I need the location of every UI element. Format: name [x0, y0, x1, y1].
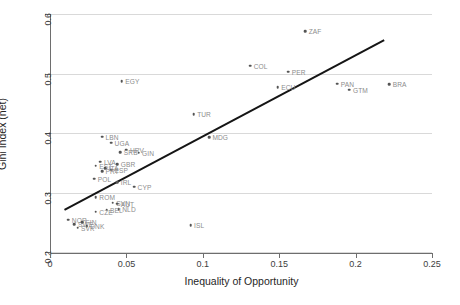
data-point-label: SRB — [124, 149, 138, 156]
y-axis-tick-label: 0.5 — [43, 73, 53, 86]
data-point-label: CYP — [138, 183, 152, 190]
data-point-label: UGA — [115, 139, 130, 146]
data-point — [73, 223, 76, 226]
x-axis-tick-label: 0.1 — [178, 259, 228, 269]
data-point — [119, 151, 122, 154]
data-point-label: CZE — [99, 208, 113, 215]
data-point — [304, 30, 307, 33]
data-point-label: IRL — [121, 179, 132, 186]
data-point — [95, 196, 98, 199]
data-point — [208, 136, 211, 139]
data-point — [101, 170, 104, 173]
x-axis-line — [50, 253, 433, 254]
data-point — [133, 185, 136, 188]
data-point — [101, 135, 104, 138]
data-point — [111, 201, 114, 204]
x-axis-tick — [203, 253, 204, 258]
data-point-label: PER — [292, 68, 306, 75]
y-axis-tick-label: 0.4 — [43, 132, 53, 145]
data-point-label: ROM — [99, 194, 115, 201]
data-point — [93, 178, 96, 181]
data-point — [189, 224, 192, 227]
y-axis-tick-label: 0.6 — [43, 13, 53, 26]
data-point — [121, 80, 124, 83]
y-axis-tick-label: 0.3 — [43, 192, 53, 205]
chart-figure: Gini Index (net) ZAFCOLPERECUPANGTMBRAEG… — [0, 0, 460, 305]
data-point — [116, 203, 119, 206]
x-axis-title: Inequality of Opportunity — [50, 275, 433, 287]
data-point — [388, 83, 391, 86]
data-point-label: GTM — [353, 86, 368, 93]
data-point — [76, 226, 79, 229]
data-point-label: BRA — [393, 81, 407, 88]
data-point-label: ISL — [194, 222, 204, 229]
data-point — [276, 86, 279, 89]
x-axis-tick-label: 0.05 — [101, 259, 151, 269]
x-axis-tick-label: 0.15 — [254, 259, 304, 269]
data-point — [67, 219, 70, 222]
plot-area: ZAFCOLPERECUPANGTMBRAEGYTURMDGISLLBNUGAH… — [50, 14, 432, 252]
data-point-label: ZAF — [309, 28, 322, 35]
data-point — [110, 141, 113, 144]
data-point-label: SVK — [81, 224, 95, 231]
data-point-label: ECU — [281, 84, 295, 91]
data-point — [336, 82, 339, 85]
x-axis-tick-label: 0.25 — [407, 259, 457, 269]
x-axis-tick-label: 0 — [25, 259, 75, 269]
x-axis-tick-label: 0.2 — [331, 259, 381, 269]
data-point-label: MDG — [212, 134, 228, 141]
x-axis-tick — [356, 253, 357, 258]
gridline-y — [50, 14, 432, 15]
x-axis-tick — [50, 253, 51, 258]
data-point — [95, 210, 98, 213]
data-point-label: POL — [98, 175, 112, 182]
y-axis-title: Gini Index (net) — [0, 14, 10, 253]
data-point — [249, 64, 252, 67]
data-point — [116, 181, 119, 184]
x-axis-tick — [432, 253, 433, 258]
data-point — [287, 70, 290, 73]
fit-line — [64, 40, 384, 211]
data-point-label: TUR — [197, 110, 211, 117]
x-axis-tick — [279, 253, 280, 258]
data-point — [95, 164, 98, 167]
data-point — [192, 113, 195, 116]
data-point-label: NLD — [122, 206, 136, 213]
data-point — [348, 88, 351, 91]
data-point-label: GIN — [142, 149, 154, 156]
data-point-label: COL — [254, 62, 268, 69]
data-point-label: PRT — [105, 168, 118, 175]
x-axis-tick — [126, 253, 127, 258]
gridline-y — [50, 74, 432, 75]
data-point-label: EGY — [125, 78, 139, 85]
